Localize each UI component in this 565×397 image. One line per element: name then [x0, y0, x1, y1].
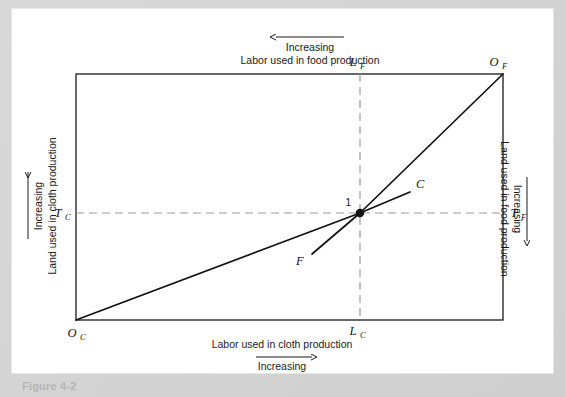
origin-label-food: O F: [489, 55, 508, 71]
origin-cloth-subscript: C: [80, 332, 86, 342]
tick-labor-food-letter: L: [349, 55, 357, 69]
origin-label-cloth: O C: [67, 326, 86, 342]
tick-labor-cloth-letter: L: [349, 324, 357, 338]
edgeworth-box-rect: [76, 74, 503, 320]
tick-label-labor-cloth: L C: [349, 324, 366, 340]
tick-land-cloth-letter: T: [55, 206, 63, 220]
bottom-axis-title: Labor used in cloth production: [212, 338, 353, 350]
tick-land-food-subscript: F: [520, 212, 527, 222]
origin-food-letter: O: [489, 55, 498, 69]
left-direction-label: Increasing: [32, 182, 44, 231]
edgeworth-box-diagram: Increasing Labor used in food production…: [12, 9, 553, 373]
bottom-direction-label: Increasing: [258, 360, 307, 372]
equilibrium-point-marker: [356, 209, 364, 217]
tick-land-cloth-subscript: C: [65, 212, 71, 222]
bottom-axis-annotation: Labor used in cloth production Increasin…: [212, 338, 353, 372]
food-expansion-path-line: [312, 74, 503, 254]
top-axis-title: Labor used in food production: [241, 54, 380, 66]
right-axis-title: Land used in food production: [499, 141, 511, 277]
tick-labor-food-subscript: F: [359, 61, 366, 71]
curve-label-c: C: [416, 177, 425, 191]
tick-label-land-cloth: T C: [55, 206, 71, 222]
tick-land-food-letter: T: [511, 206, 519, 220]
curve-label-f: F: [295, 254, 304, 268]
tick-labor-cloth-subscript: C: [360, 330, 366, 340]
page-background: Increasing Labor used in food production…: [0, 0, 565, 397]
equilibrium-point-label: 1: [345, 197, 351, 208]
origin-cloth-letter: O: [67, 326, 76, 340]
left-axis-annotation: Increasing Land used in cloth production: [28, 137, 58, 274]
origin-food-subscript: F: [501, 61, 508, 71]
top-axis-annotation: Increasing Labor used in food production: [241, 37, 380, 66]
figure-card: Increasing Labor used in food production…: [12, 9, 553, 373]
figure-caption-strip: Figure 4-2: [12, 378, 553, 397]
figure-caption: Figure 4-2: [22, 380, 77, 392]
top-direction-label: Increasing: [286, 41, 335, 53]
